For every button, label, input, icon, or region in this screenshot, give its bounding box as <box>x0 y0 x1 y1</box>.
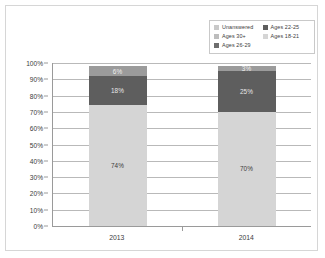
y-axis-tick-mark <box>44 193 48 194</box>
y-axis-tick-label: 40% <box>30 157 43 164</box>
y-axis-tick-label: 30% <box>30 174 43 181</box>
legend-item-label: Ages 22-25 <box>271 24 300 31</box>
plot-wrapper: 100%90%80%70%60%50%40%30%20%10%0% 74%18%… <box>15 63 311 238</box>
y-axis: 100%90%80%70%60%50%40%30%20%10%0% <box>15 63 48 226</box>
y-axis-tick-label: 90% <box>30 76 43 83</box>
bar-segment-label: 25% <box>240 88 253 95</box>
y-axis-tick-label: 50% <box>30 141 43 148</box>
legend-swatch-icon <box>263 25 268 30</box>
y-axis-tick-mark <box>44 95 48 96</box>
stacked-bar[interactable]: 70%25%3% <box>218 63 276 226</box>
x-axis-tick-mark <box>182 227 183 231</box>
bar-segment[interactable]: 74% <box>89 105 147 226</box>
legend-swatch-icon <box>214 25 219 30</box>
plot-area: 74%18%6%70%25%3% <box>52 63 311 227</box>
legend-swatch-icon <box>263 34 268 39</box>
legend-item-unanswered[interactable]: Unanswered <box>214 24 263 31</box>
legend-swatch-icon <box>214 34 219 39</box>
stacked-bar[interactable]: 74%18%6% <box>89 63 147 226</box>
bar-segment-label: 6% <box>113 68 122 75</box>
bar-segment-label: 74% <box>111 162 124 169</box>
legend-item-label: Ages 18-21 <box>271 33 300 40</box>
legend-swatch-icon <box>214 43 219 48</box>
chart-frame: Unanswered Ages 22-25 Ages 30+ Ages 18-2… <box>5 5 318 251</box>
y-axis-tick-mark <box>44 226 48 227</box>
legend-item-label: Unanswered <box>222 24 253 31</box>
y-axis-tick-label: 0% <box>33 223 43 230</box>
bar-slot: 74%18%6% <box>53 63 182 226</box>
bar-segment-label: 3% <box>242 66 251 71</box>
bar-segment[interactable]: 70% <box>218 112 276 226</box>
y-axis-tick-label: 80% <box>30 92 43 99</box>
y-axis-tick-mark <box>44 128 48 129</box>
y-axis-tick-mark <box>44 63 48 64</box>
legend-items: Unanswered Ages 22-25 Ages 30+ Ages 18-2… <box>214 24 311 51</box>
y-axis-tick-label: 60% <box>30 125 43 132</box>
y-axis-tick-label: 10% <box>30 206 43 213</box>
y-axis-tick-mark <box>44 79 48 80</box>
legend-item-ages-30-plus[interactable]: Ages 30+ <box>214 33 263 40</box>
y-axis-tick-mark <box>44 111 48 112</box>
bar-segment[interactable]: 6% <box>89 66 147 76</box>
y-axis-tick-mark <box>44 160 48 161</box>
legend-item-ages-18-21[interactable]: Ages 18-21 <box>263 33 312 40</box>
legend-item-ages-22-25[interactable]: Ages 22-25 <box>263 24 312 31</box>
legend-item-label: Ages 30+ <box>222 33 246 40</box>
legend-item-ages-26-29[interactable]: Ages 26-29 <box>214 42 263 49</box>
y-axis-tick-mark <box>44 177 48 178</box>
chart-legend: Unanswered Ages 22-25 Ages 30+ Ages 18-2… <box>209 20 315 54</box>
bars-layer: 74%18%6%70%25%3% <box>53 63 311 226</box>
bar-segment-label: 70% <box>240 165 253 172</box>
bar-segment[interactable]: 18% <box>89 76 147 105</box>
bar-slot: 70%25%3% <box>182 63 311 226</box>
legend-item-label: Ages 26-29 <box>222 42 251 49</box>
x-axis-tick-label: 2013 <box>52 234 182 241</box>
y-axis-tick-mark <box>44 144 48 145</box>
x-axis: 20132014 <box>52 234 311 241</box>
y-axis-tick-mark <box>44 209 48 210</box>
x-axis-tick-label: 2014 <box>182 234 312 241</box>
y-axis-tick-label: 70% <box>30 108 43 115</box>
y-axis-tick-label: 20% <box>30 190 43 197</box>
bar-segment[interactable]: 25% <box>218 71 276 112</box>
bar-segment-label: 18% <box>111 87 124 94</box>
bar-segment[interactable]: 3% <box>218 66 276 71</box>
y-axis-tick-label: 100% <box>26 60 43 67</box>
